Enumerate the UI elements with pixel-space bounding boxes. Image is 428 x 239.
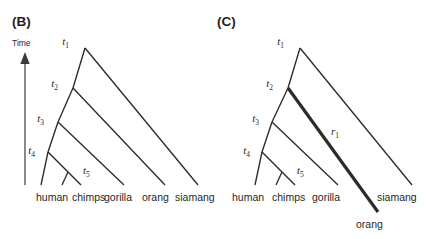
time-axis-arrow-icon xyxy=(20,52,29,64)
panel-b-node-t2: t2 xyxy=(51,77,58,92)
panel-b-label: (B) xyxy=(12,14,31,29)
branch-t1-t2 xyxy=(288,48,300,88)
panel-b-tip-chimps: chimps xyxy=(72,191,105,203)
branch-chimp-a xyxy=(62,172,68,185)
branch-t2-t3 xyxy=(272,88,288,122)
panel-c-tip-chimps: chimps xyxy=(272,191,305,203)
panel-c-tip-human: human xyxy=(232,191,264,203)
branch-chimp-b xyxy=(68,172,81,185)
branch-chimp-b xyxy=(282,172,295,185)
panel-b-node-t1: t1 xyxy=(62,35,69,50)
time-axis-label: Time xyxy=(12,38,31,48)
panel-b-node-t3: t3 xyxy=(37,112,44,127)
branch-t2-t3 xyxy=(58,88,73,122)
branch-human xyxy=(41,152,48,185)
panel-c-label: (C) xyxy=(217,14,236,29)
phylogenetic-tree-figure: (B) Time xyxy=(0,0,428,239)
panel-b-tree xyxy=(41,48,198,185)
branch-t4-t5 xyxy=(48,152,68,172)
panel-c-tip-gorilla: gorilla xyxy=(312,191,340,203)
panel-c-rate-r1: r1 xyxy=(331,125,339,140)
panel-c-node-t3: t3 xyxy=(252,112,259,127)
panel-c: (C) t1 t2 t3 t4 xyxy=(217,14,417,230)
panel-b-tip-siamang: siamang xyxy=(175,191,215,203)
branch-gorilla xyxy=(272,122,338,185)
panel-b-tip-orang: orang xyxy=(142,191,169,203)
panel-b-tip-human: human xyxy=(36,191,68,203)
panel-b-node-t4: t4 xyxy=(28,144,35,159)
branch-human xyxy=(255,152,262,185)
panel-c-node-t5: t5 xyxy=(297,164,304,179)
branch-chimp-a xyxy=(276,172,282,185)
branch-t1-t2 xyxy=(73,48,85,88)
branch-t3-t4 xyxy=(48,122,58,152)
time-axis-group: Time xyxy=(12,38,31,185)
panel-b: (B) Time xyxy=(12,14,215,203)
panel-c-node-t1: t1 xyxy=(277,35,284,50)
branch-t3-t4 xyxy=(262,122,272,152)
panel-b-tip-gorilla: gorilla xyxy=(104,191,132,203)
panel-c-node-t4: t4 xyxy=(243,144,250,159)
panel-c-tip-orang: orang xyxy=(356,218,383,230)
branch-t4-t5 xyxy=(262,152,282,172)
panel-c-tip-siamang: siamang xyxy=(377,191,417,203)
panel-c-node-t2: t2 xyxy=(266,77,273,92)
panel-b-node-t5: t5 xyxy=(83,164,90,179)
